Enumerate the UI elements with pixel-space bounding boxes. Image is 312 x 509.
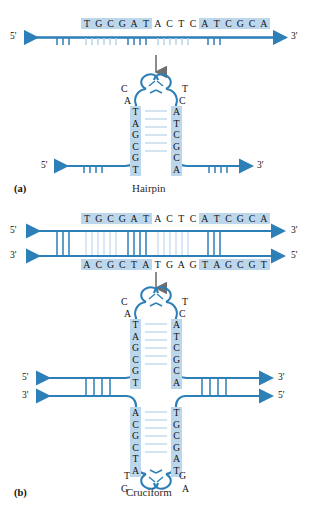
base-A: A [128, 18, 140, 29]
base-G: G [116, 18, 128, 29]
panel-a-label: (a) [14, 183, 26, 194]
base-G: G [105, 259, 117, 270]
hairpin-a-loop-left-inner: A [124, 95, 131, 106]
cruciform-lower-stem-right: TGCGAT [171, 407, 182, 477]
base-T: T [128, 259, 140, 270]
top-segment-spacer: ACTC [152, 213, 199, 224]
cruciform-lower-stem-left: ACGCTA [130, 407, 141, 477]
cruciform-arm-right-top-prime: 3' [278, 372, 284, 382]
figure-vector-layer [0, 0, 312, 509]
cruciform-arm-left-top-prime: 5' [22, 372, 28, 382]
hairpin-a-5prime: 5' [41, 160, 47, 170]
panel-b-label: (b) [14, 487, 27, 498]
base-A: A [171, 106, 182, 118]
base-G: G [130, 129, 141, 141]
base-G: G [234, 18, 246, 29]
panel-a-linear-5prime: 5' [10, 31, 16, 41]
base-T: T [130, 319, 141, 331]
base-C: C [187, 213, 199, 224]
base-C: C [130, 141, 141, 153]
base-C: C [105, 213, 117, 224]
cruciform-arm-right-bottom-prime: 5' [278, 390, 284, 400]
panel-b-top-3prime: 3' [291, 225, 297, 235]
hairpin-a-stem-left: TAGCGT [130, 106, 141, 176]
base-T: T [130, 377, 141, 389]
base-C: C [234, 259, 246, 270]
bottom-segment-repeat-left: ACGCTA [81, 259, 152, 270]
base-A: A [130, 465, 141, 477]
base-A: A [152, 18, 164, 29]
cruciform-upper-stem-right: ATCGCA [171, 319, 182, 389]
bottom-segment-repeat-right: TAGCGT [199, 259, 270, 270]
panel-a-linear-3prime: 3' [291, 31, 297, 41]
hairpin-a-loop-left-outer: C [121, 83, 128, 94]
base-T: T [175, 18, 187, 29]
base-A: A [130, 118, 141, 130]
base-T: T [140, 18, 152, 29]
panel-a-linear-sequence: TGCGAT ACTC ATCGCA [81, 18, 270, 29]
base-C: C [130, 419, 141, 431]
base-A: A [81, 259, 93, 270]
base-G: G [171, 419, 182, 431]
panel-b-bottom-3prime: 3' [10, 250, 16, 260]
base-C: C [105, 18, 117, 29]
base-A: A [128, 213, 140, 224]
base-A: A [171, 319, 182, 331]
base-A: A [199, 18, 211, 29]
base-G: G [164, 259, 176, 270]
base-C: C [223, 18, 235, 29]
base-C: C [246, 213, 258, 224]
base-C: C [130, 442, 141, 454]
panel-b-top-sequence: TGCGAT ACTC ATCGCA [81, 213, 270, 224]
top-segment-repeat-left: TGCGAT [81, 213, 152, 224]
cruciform-upper-loop-left-outer: C [121, 296, 128, 307]
base-T: T [175, 213, 187, 224]
base-C: C [171, 430, 182, 442]
segment-repeat-right: ATCGCA [199, 18, 270, 29]
base-C: C [187, 18, 199, 29]
base-T: T [81, 213, 93, 224]
base-A: A [171, 377, 182, 389]
base-T: T [152, 259, 164, 270]
base-T: T [171, 331, 182, 343]
panel-a-caption: Hairpin [132, 182, 166, 194]
cruciform-upper-loop-right-outer: T [182, 296, 188, 307]
base-C: C [171, 152, 182, 164]
figure-root: TGCGAT ACTC ATCGCA 5' 3' C A T C TAGCGT … [0, 0, 312, 509]
hairpin-a-3prime: 3' [257, 160, 263, 170]
base-A: A [130, 407, 141, 419]
base-T: T [140, 213, 152, 224]
base-G: G [130, 342, 141, 354]
base-G: G [116, 213, 128, 224]
base-A: A [171, 453, 182, 465]
hairpin-a-loop-right-outer: T [182, 83, 188, 94]
base-T: T [171, 407, 182, 419]
top-segment-repeat-right: ATCGCA [199, 213, 270, 224]
base-G: G [171, 354, 182, 366]
cruciform-arms [38, 378, 272, 406]
base-C: C [93, 259, 105, 270]
base-T: T [81, 18, 93, 29]
base-T: T [130, 106, 141, 118]
cruciform-lower-loop-right-outer: A [182, 483, 189, 494]
base-G: G [130, 152, 141, 164]
base-T: T [130, 164, 141, 176]
base-G: G [171, 141, 182, 153]
bottom-segment-spacer: TGAG [152, 259, 199, 270]
base-A: A [152, 213, 164, 224]
base-A: A [211, 259, 223, 270]
panel-b-duplex-strands [28, 231, 284, 256]
base-T: T [258, 259, 270, 270]
segment-spacer: ACTC [152, 18, 199, 29]
base-G: G [223, 259, 235, 270]
cruciform-upper-stem-left: TAGCGT [130, 319, 141, 389]
panel-a-hairpin-vector [56, 74, 252, 173]
cruciform-upper-loop-left-inner: A [124, 308, 131, 319]
base-C: C [130, 354, 141, 366]
panel-b-top-5prime: 5' [10, 225, 16, 235]
base-T: T [171, 118, 182, 130]
base-A: A [258, 18, 270, 29]
base-G: G [171, 442, 182, 454]
base-A: A [130, 331, 141, 343]
panel-b-bottom-5prime: 5' [291, 250, 297, 260]
